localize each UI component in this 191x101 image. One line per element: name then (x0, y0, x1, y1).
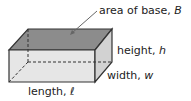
height-label-text: height, (117, 44, 159, 57)
front-face (9, 50, 95, 82)
base-label: area of base, B (99, 5, 182, 17)
height-label: height, h (117, 45, 166, 57)
width-variable: w (144, 69, 153, 82)
base-variable: B (174, 4, 182, 17)
top-face (9, 29, 112, 50)
length-label-text: length, (28, 85, 70, 98)
length-label: length, ℓ (28, 86, 75, 98)
width-label: width, w (107, 70, 153, 82)
height-variable: h (159, 44, 166, 57)
base-label-text: area of base, (99, 4, 174, 17)
length-variable: ℓ (70, 85, 75, 98)
width-label-text: width, (107, 69, 144, 82)
